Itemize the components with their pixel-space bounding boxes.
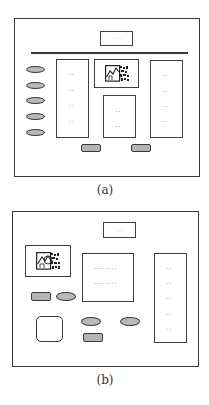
wireframe-b-rounded-square: [36, 316, 63, 342]
caption-a: (a): [85, 183, 125, 197]
wireframe-a-middle-item: --: [115, 124, 121, 129]
wireframe-b-oval-button-2: [81, 317, 101, 326]
wireframe-a-middle-item: --: [115, 109, 121, 114]
wireframe-a-title-box: ----: [100, 31, 133, 46]
wireframe-b-right-item: --: [166, 296, 172, 301]
wireframe-b-right-item: --: [166, 266, 172, 271]
wireframe-a-left-item: --: [68, 88, 74, 93]
wireframe-a-left-item: --: [68, 103, 74, 108]
wireframe-a-rect-button-1: [81, 144, 101, 152]
wireframe-a-divider: [31, 52, 188, 54]
wireframe-b-image-box: [25, 245, 71, 277]
wireframe-a-title-text: ----: [101, 37, 132, 41]
wireframe-b-right-panel: -- -- -- -- --: [154, 253, 187, 343]
wireframe-a-right-item: --: [162, 73, 168, 78]
wireframe-b-oval-button-3: [120, 317, 140, 326]
wireframe-a-right-item: --: [162, 119, 168, 124]
wireframe-b-rect-button-1: [31, 292, 51, 301]
wireframe-b-oval-button-1: [56, 292, 76, 301]
wireframe-b-right-item: --: [166, 281, 172, 286]
chart-thumbnail-icon: [36, 252, 61, 270]
wireframe-a-right-item: --: [162, 89, 168, 94]
wireframe-a-right-item: --: [162, 104, 168, 109]
wireframe-a-left-item: --: [68, 72, 74, 77]
wireframe-b-middle-item: --------: [93, 266, 117, 271]
wireframe-b-middle-item: --------: [93, 281, 117, 286]
wireframe-a-oval-button-1: [26, 66, 45, 73]
wireframe-a-image-box: [94, 59, 139, 88]
wireframe-a-left-panel: -- -- -- --: [56, 59, 89, 138]
wireframe-b-rect-button-2: [83, 333, 103, 342]
wireframe-a-oval-button-3: [26, 97, 45, 104]
wireframe-a-rect-button-2: [131, 144, 151, 152]
caption-b: (b): [85, 373, 125, 387]
wireframe-a-middle-panel: -- --: [103, 95, 136, 138]
wireframe-b-title-text: ---: [104, 229, 135, 233]
wireframe-a-oval-button-4: [26, 113, 45, 120]
chart-thumbnail-icon: [105, 65, 130, 82]
wireframe-b-middle-panel: -------- --------: [82, 253, 134, 302]
wireframe-b-title-box: ---: [103, 222, 136, 238]
wireframe-b-right-item: --: [166, 327, 172, 332]
wireframe-a-oval-button-5: [26, 129, 45, 136]
wireframe-a-right-panel: -- -- -- --: [150, 60, 183, 138]
wireframe-a-left-item: --: [68, 119, 74, 124]
wireframe-a-oval-button-2: [26, 82, 45, 89]
wireframe-b-right-item: --: [166, 312, 172, 317]
